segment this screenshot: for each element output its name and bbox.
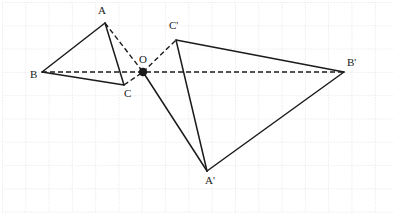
grid-overlay <box>2 2 394 213</box>
vertex-label-Cp: C' <box>169 19 178 31</box>
geometry-figure: ABCOA'B'C' <box>0 0 396 215</box>
vertex-dots-layer <box>139 68 147 76</box>
vertex-label-B: B <box>30 68 37 80</box>
figure-canvas: ABCOA'B'C' <box>0 0 396 215</box>
vertex-label-A: A <box>98 4 106 16</box>
point-dot-O <box>139 68 147 76</box>
vertex-label-Ap: A' <box>205 174 215 186</box>
vertex-label-C: C <box>124 87 131 99</box>
vertex-label-Bp: B' <box>347 56 356 68</box>
vertex-label-O: O <box>139 53 147 65</box>
